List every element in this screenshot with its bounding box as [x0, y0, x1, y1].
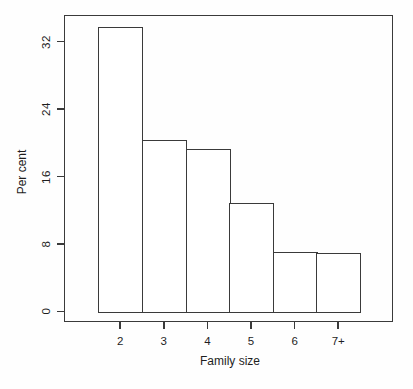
bar-family-size-3	[142, 140, 187, 313]
y-tick-32	[57, 41, 64, 43]
bar-family-size-6	[273, 252, 318, 312]
bar-family-size-7+	[316, 253, 361, 313]
x-tick-label-2: 2	[117, 335, 123, 347]
y-tick-label-24: 24	[40, 102, 52, 116]
x-tick-4	[207, 322, 209, 329]
bar-family-size-2	[98, 27, 143, 312]
y-tick-label-32: 32	[40, 35, 52, 49]
y-tick-8	[57, 243, 64, 245]
bar-family-size-5	[229, 203, 274, 312]
x-tick-6	[294, 322, 296, 329]
x-tick-label-6: 6	[291, 335, 297, 347]
y-tick-16	[57, 176, 64, 178]
x-tick-7+	[337, 322, 339, 329]
x-tick-label-7+: 7+	[332, 335, 345, 347]
x-axis-title: Family size	[200, 354, 260, 368]
x-tick-label-5: 5	[248, 335, 254, 347]
x-tick-5	[250, 322, 252, 329]
x-tick-label-3: 3	[161, 335, 167, 347]
x-tick-2	[119, 322, 121, 329]
y-tick-label-0: 0	[40, 308, 52, 315]
bar-family-size-4	[186, 149, 231, 313]
bar-chart-figure: 08162432 234567+ Per cent Family size	[0, 0, 413, 389]
y-tick-0	[57, 311, 64, 313]
x-tick-3	[163, 322, 165, 329]
x-tick-label-4: 4	[204, 335, 210, 347]
y-tick-label-8: 8	[40, 240, 52, 247]
y-tick-24	[57, 108, 64, 110]
y-axis-title: Per cent	[15, 150, 29, 195]
y-tick-label-16: 16	[40, 170, 52, 184]
